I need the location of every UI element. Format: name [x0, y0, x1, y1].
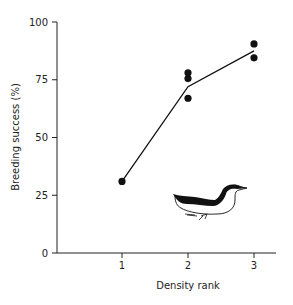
breeding-success-chart: 0255075100 123 Density rank Breeding suc… — [0, 0, 293, 305]
guillemot-bird-icon — [173, 185, 247, 220]
x-axis-title: Density rank — [156, 280, 220, 291]
data-point — [118, 178, 125, 185]
data-point — [250, 54, 257, 61]
y-tick-label: 75 — [35, 74, 48, 85]
data-point — [250, 40, 257, 47]
x-axis-ticks: 123 — [119, 253, 257, 271]
y-tick-label: 25 — [35, 190, 48, 201]
y-axis-title: Breeding success (%) — [10, 83, 21, 191]
x-tick-label: 2 — [185, 260, 191, 271]
y-tick-label: 50 — [35, 132, 48, 143]
data-points — [118, 40, 257, 185]
data-point — [184, 95, 191, 102]
y-tick-label: 0 — [42, 248, 48, 259]
x-tick-label: 3 — [251, 260, 257, 271]
x-tick-label: 1 — [119, 260, 125, 271]
data-point — [184, 75, 191, 82]
y-axis-ticks: 0255075100 — [29, 17, 57, 259]
y-tick-label: 100 — [29, 17, 48, 28]
